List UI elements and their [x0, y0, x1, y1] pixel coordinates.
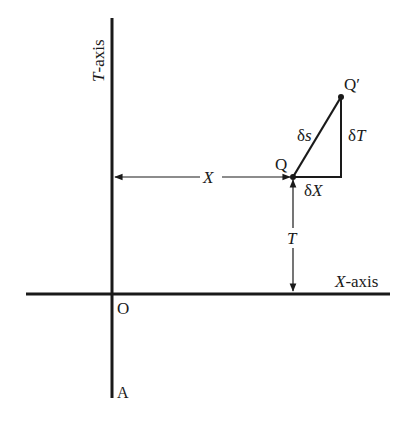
point-a-label: A: [117, 384, 129, 401]
diagram-canvas: T-axis X-axis O A X T Q Q′ δs δT δX: [0, 0, 405, 422]
ds-label: δs: [297, 126, 312, 145]
point-q-prime: [338, 94, 344, 100]
point-q: [290, 174, 296, 180]
point-q-label: Q: [275, 155, 287, 174]
t-axis-label: T-axis: [89, 39, 108, 82]
point-q-prime-label: Q′: [344, 75, 360, 94]
dx-label: δX: [304, 181, 323, 200]
dt-label: δT: [348, 126, 367, 145]
origin-label: O: [117, 299, 129, 318]
x-axis-label: X-axis: [334, 272, 378, 291]
t-distance-label: T: [287, 229, 298, 248]
x-distance-label: X: [202, 168, 214, 187]
